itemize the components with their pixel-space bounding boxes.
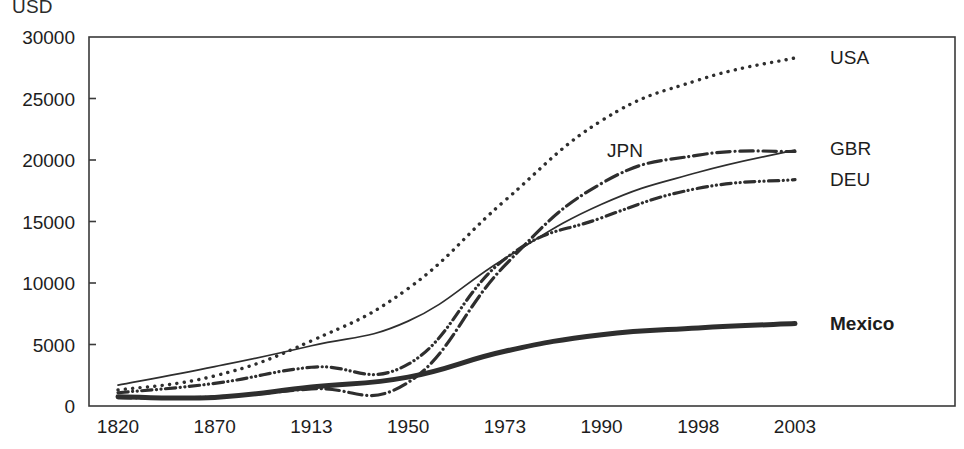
series-labels: USAGBRDEUMexicoJPN (607, 47, 894, 334)
axis-tickmarks (89, 99, 96, 345)
y-axis-tick-label: 20000 (22, 150, 75, 171)
line-chart: 050001000015000200002500030000 182018701… (0, 0, 964, 449)
x-axis-tick-label: 2003 (774, 416, 816, 437)
x-axis-tick-label: 1913 (290, 416, 332, 437)
series-lines (118, 58, 795, 398)
x-axis-tick-label: 1973 (484, 416, 526, 437)
series-line-mexico (118, 324, 795, 399)
chart-container: USD 050001000015000200002500030000 18201… (0, 0, 964, 449)
y-axis-tick-label: 10000 (22, 273, 75, 294)
plot-frame (89, 37, 955, 406)
x-axis-tick-label: 1870 (194, 416, 236, 437)
x-axis-tick-label: 1820 (97, 416, 139, 437)
y-axis-tick-label: 0 (64, 396, 75, 417)
series-line-deu (118, 180, 795, 393)
x-axis-tick-labels: 18201870191319501973199019982003 (97, 416, 816, 437)
x-axis-tick-label: 1990 (580, 416, 622, 437)
series-line-gbr (118, 150, 795, 385)
y-axis-tick-label: 30000 (22, 27, 75, 48)
series-label-jpn: JPN (607, 140, 643, 161)
x-axis-tick-label: 1998 (677, 416, 719, 437)
series-label-mexico: Mexico (830, 313, 894, 334)
y-axis-tick-labels: 050001000015000200002500030000 (22, 27, 75, 417)
series-line-jpn (118, 151, 795, 398)
series-label-deu: DEU (830, 169, 870, 190)
y-axis-tick-label: 25000 (22, 89, 75, 110)
y-axis-tick-label: 5000 (33, 335, 75, 356)
series-label-usa: USA (830, 47, 869, 68)
series-label-gbr: GBR (830, 138, 871, 159)
x-axis-tick-label: 1950 (387, 416, 429, 437)
series-line-usa (118, 58, 795, 390)
y-axis-tick-label: 15000 (22, 212, 75, 233)
